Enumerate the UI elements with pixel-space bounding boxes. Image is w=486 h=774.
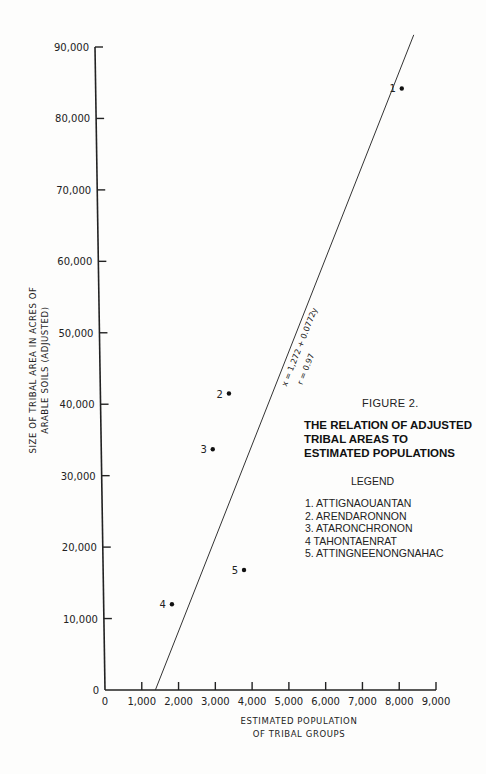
data-point-label: 5 <box>232 565 238 576</box>
legend-entry: 2. ARENDARONNON <box>305 510 444 523</box>
svg-text:OF TRIBAL GROUPS: OF TRIBAL GROUPS <box>253 729 346 739</box>
y-tick-label: 50,000 <box>58 328 93 339</box>
y-tick-label: 30,000 <box>61 471 96 482</box>
data-point <box>170 602 174 606</box>
figure-title: THE RELATION OF ADJUSTED TRIBAL AREAS TO… <box>304 418 484 460</box>
y-axis <box>95 47 105 690</box>
y-tick-label: 0 <box>93 685 99 696</box>
x-tick-label: 0 <box>102 696 108 707</box>
y-tick-label: 70,000 <box>56 185 91 196</box>
scatter-chart: 010,00020,00030,00040,00050,00060,00070,… <box>0 0 486 774</box>
x-axis-title: ESTIMATED POPULATION OF TRIBAL GROUPS <box>241 716 358 739</box>
x-tick-label: 8,000 <box>385 696 414 707</box>
regression-equation: x = 1,272 + 0.0772y r = 0.97 <box>280 306 319 388</box>
data-point <box>211 447 215 451</box>
legend-entry: 4 TAHONTAENRAT <box>305 535 444 548</box>
figure-label: FIGURE 2. <box>362 397 419 409</box>
y-tick-label: 10,000 <box>63 614 98 625</box>
data-point <box>227 391 231 395</box>
data-point <box>242 568 246 572</box>
legend: 1. ATTIGNAOUANTAN 2. ARENDARONNON 3. ATA… <box>305 497 444 560</box>
x-tick-label: 2,000 <box>164 696 193 707</box>
data-point-label: 2 <box>217 389 223 400</box>
data-point-label: 3 <box>200 444 206 455</box>
axes: 010,00020,00030,00040,00050,00060,00070,… <box>54 42 450 707</box>
x-tick-label: 7,000 <box>348 696 377 707</box>
svg-text:SIZE OF TRIBAL AREA IN ACRES O: SIZE OF TRIBAL AREA IN ACRES OF <box>28 286 38 453</box>
legend-entry: 5. ATTINGNEENONGNAHAC <box>305 547 444 560</box>
x-tick-label: 4,000 <box>238 696 267 707</box>
x-tick-label: 5,000 <box>275 696 304 707</box>
legend-entry: 3. ATARONCHRONON <box>305 522 444 535</box>
figure-title-line: ESTIMATED POPULATIONS <box>304 446 484 460</box>
y-tick-label: 60,000 <box>57 256 92 267</box>
svg-text:ARABLE SOILS (ADJUSTED): ARABLE SOILS (ADJUSTED) <box>40 306 50 433</box>
data-point-label: 1 <box>389 83 395 94</box>
x-tick-label: 6,000 <box>311 696 340 707</box>
y-tick-label: 90,000 <box>54 42 89 53</box>
y-tick-label: 20,000 <box>62 542 97 553</box>
x-ticks: 01,0002,0003,0004,0005,0006,0007,0008,00… <box>102 682 451 707</box>
x-tick-label: 3,000 <box>201 696 230 707</box>
figure-title-line: THE RELATION OF ADJUSTED <box>304 418 484 432</box>
figure-title-line: TRIBAL AREAS TO <box>304 432 484 446</box>
y-tick-label: 80,000 <box>55 113 90 124</box>
y-tick-label: 40,000 <box>60 399 95 410</box>
x-tick-label: 1,000 <box>127 696 156 707</box>
legend-title: LEGEND <box>351 475 394 487</box>
data-point-label: 4 <box>160 599 166 610</box>
legend-entry: 1. ATTIGNAOUANTAN <box>305 497 444 510</box>
data-point <box>400 86 404 90</box>
y-axis-title: SIZE OF TRIBAL AREA IN ACRES OF ARABLE S… <box>28 286 50 453</box>
svg-text:ESTIMATED POPULATION: ESTIMATED POPULATION <box>241 716 358 726</box>
regression-line <box>155 35 413 690</box>
x-tick-label: 9,000 <box>422 696 451 707</box>
